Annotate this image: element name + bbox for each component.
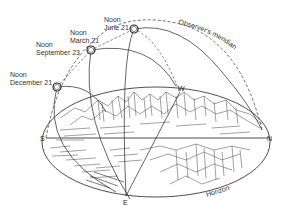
label-june-noon: Noon (104, 16, 121, 23)
sun-path-diagram: Noon June 21 Noon March 21 Noon Septembe… (0, 0, 282, 209)
label-december-date: December 21 (10, 79, 52, 86)
sun-march-21-icon (87, 46, 95, 54)
terrain-illustration (50, 92, 262, 188)
east-west-line (126, 92, 180, 196)
label-december-noon: Noon (10, 71, 27, 78)
label-june-date: June 21 (104, 24, 129, 31)
horizon-ellipse (42, 87, 270, 197)
label-september-noon: Noon (36, 41, 53, 48)
sun-path-equinox (89, 48, 176, 199)
label-march-date: March 21 (70, 37, 99, 44)
sun-december-21-icon (53, 83, 61, 91)
sun-june-21-icon (130, 25, 138, 33)
cardinal-east: E (123, 199, 128, 206)
label-september-date: September 23 (36, 49, 80, 57)
west-arc (134, 29, 179, 91)
meridian-label: Observer's meridian (178, 18, 238, 50)
label-march-noon: Noon (70, 29, 87, 36)
cardinal-west: W (178, 85, 185, 92)
cardinal-north: N (267, 135, 272, 142)
horizon-label: Horizon (205, 184, 230, 198)
cardinal-south: S (40, 135, 45, 142)
